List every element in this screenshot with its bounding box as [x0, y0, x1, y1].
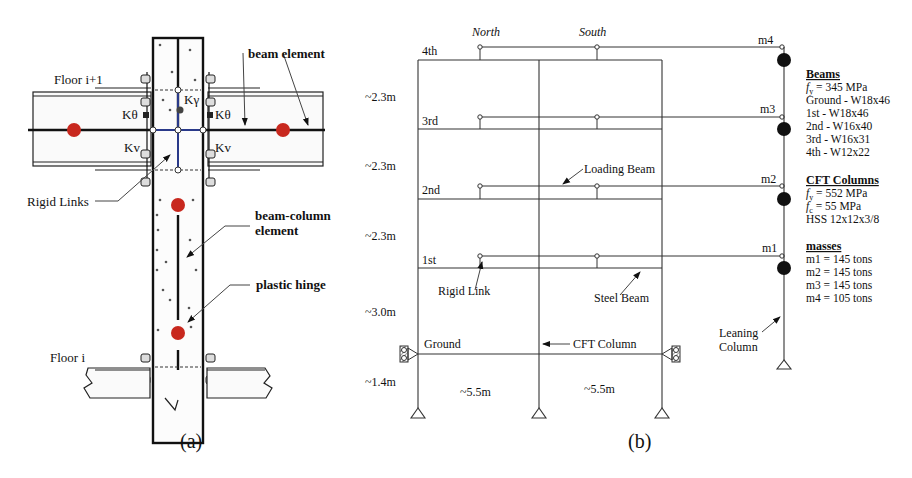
cft-column-label: CFT Column [573, 337, 636, 351]
moment-frame [418, 60, 662, 408]
k-gamma-spring-icon [177, 107, 184, 114]
rigid-link-label: Rigid Link [438, 284, 490, 298]
k-theta-spring-right-icon [207, 112, 213, 118]
mass-row: m4 = 105 tons [806, 292, 873, 304]
floor-top-label: Floor i+1 [54, 72, 103, 87]
leaning-column-label-2: Column [719, 340, 758, 354]
kv-left-label: Kv [124, 140, 140, 155]
caption-a: (a) [180, 430, 202, 453]
beam-element-label: beam element [248, 46, 326, 61]
height-label-3: ~2.3m [365, 159, 396, 173]
floor-label-1st: 1st [422, 253, 437, 267]
beams-row: 1st - W18x46 [806, 107, 869, 119]
south-label: South [579, 25, 606, 39]
beam-column-label-line1: beam-column [255, 208, 332, 223]
north-label: North [471, 25, 500, 39]
rigid-links-label: Rigid Links [27, 194, 89, 209]
floor-label-3rd: 3rd [422, 114, 438, 128]
beams-row: Ground - W18x46 [806, 94, 890, 106]
pin-nodes [478, 45, 784, 258]
k-theta-right-label: Kθ [215, 107, 231, 122]
mass-label-m2: m2 [761, 172, 776, 186]
height-label-4: ~2.3m [365, 90, 396, 104]
kv-right-label: Kv [215, 140, 231, 155]
beams-title: Beams [806, 67, 840, 81]
masses-title: masses [806, 239, 842, 253]
height-label-1: ~3.0m [365, 305, 396, 319]
height-label-2: ~2.3m [365, 229, 396, 243]
span-label-south: ~5.5m [584, 382, 615, 396]
floor-bottom-label: Floor i [50, 350, 85, 365]
k-theta-spring-left-icon [143, 112, 149, 118]
beams-row: 4th - W12x22 [806, 146, 870, 158]
beams-properties: Beams fy = 345 MPa Ground - W18x46 1st -… [806, 67, 890, 158]
mass-row: m2 = 145 tons [806, 266, 873, 278]
figure-canvas: Floor i+1 Floor i beam element Kθ Kθ Kγ … [0, 0, 912, 478]
caption-b: (b) [628, 430, 651, 453]
cft-section: HSS 12x12x3/8 [806, 213, 879, 225]
cft-columns-title: CFT Columns [806, 173, 879, 187]
mass-row: m1 = 145 tons [806, 253, 873, 265]
mass-row: m3 = 145 tons [806, 279, 873, 291]
cft-columns-properties: CFT Columns fy = 552 MPa fc = 55 MPa HSS… [806, 173, 879, 225]
loading-beam-label: Loading Beam [584, 162, 656, 176]
loading-beams [480, 47, 782, 268]
mass-label-m4: m4 [758, 33, 773, 47]
k-gamma-label: Kγ [184, 92, 199, 107]
steel-beam-label: Steel Beam [594, 291, 650, 305]
beam-column-label-line2: element [255, 223, 299, 238]
plastic-hinge-label: plastic hinge [256, 277, 326, 292]
panel-a-connection-detail: Floor i+1 Floor i beam element Kθ Kθ Kγ … [27, 38, 332, 453]
beams-row: 3rd - W16x31 [806, 133, 871, 145]
leaning-column-label-1: Leaning [719, 326, 758, 340]
panel-b-frame-elevation: North South 4th 3rd 2nd 1st Ground ~2.3m… [365, 25, 890, 453]
floor-label-4th: 4th [422, 44, 437, 58]
k-theta-left-label: Kθ [122, 107, 138, 122]
floor-label-ground: Ground [424, 337, 461, 351]
beams-row: 2nd - W16x40 [806, 120, 872, 132]
height-label-basement: ~1.4m [365, 375, 396, 389]
masses-properties: masses m1 = 145 tons m2 = 145 tons m3 = … [806, 239, 873, 304]
mass-label-m3: m3 [760, 102, 775, 116]
floor-label-2nd: 2nd [422, 183, 440, 197]
span-label-north: ~5.5m [460, 385, 491, 399]
mass-label-m1: m1 [762, 241, 777, 255]
